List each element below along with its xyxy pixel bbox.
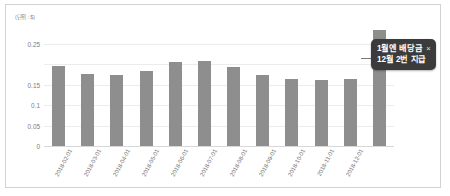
x-axis-tick-label: 2018-06-01 xyxy=(170,148,189,177)
bar[interactable] xyxy=(227,67,240,146)
bar[interactable] xyxy=(256,75,269,146)
chart-frame: (단위 : $) 00.050.10.150.25 2018-02-012018… xyxy=(5,4,441,188)
x-axis-tick-label: 2018-12-01 xyxy=(345,148,364,177)
bar[interactable] xyxy=(344,79,357,146)
annotation-line-2: 12월 2번 지급 xyxy=(377,54,430,65)
x-axis-tick-label: 2018-03-01 xyxy=(83,148,102,177)
bar-series xyxy=(44,23,394,146)
y-axis-tick-label: 0.25 xyxy=(28,40,40,47)
bar[interactable] xyxy=(52,66,65,146)
x-axis-tick-label: 2018-05-01 xyxy=(141,148,160,177)
bar[interactable] xyxy=(198,61,211,146)
axis-unit-label: (단위 : $) xyxy=(15,13,35,21)
y-axis-tick-label: 0.15 xyxy=(28,81,40,88)
bar[interactable] xyxy=(81,74,94,146)
y-axis-tick-label: 0.05 xyxy=(28,122,40,129)
x-axis-tick-label: 2018-09-01 xyxy=(258,148,277,177)
annotation-text-1: 1월엔 배당금 xyxy=(377,44,423,53)
annotation-callout[interactable]: 1월엔 배당금× 12월 2번 지급 xyxy=(371,39,436,70)
x-axis-tick-labels: 2018-02-012018-03-012018-04-012018-05-01… xyxy=(44,146,394,196)
y-axis-tick-label: 0.1 xyxy=(31,102,40,109)
x-axis-tick-label: 2018-10-01 xyxy=(287,148,306,177)
close-icon[interactable]: × xyxy=(426,44,430,53)
y-axis-tick-label: 0 xyxy=(36,143,40,150)
annotation-line-1: 1월엔 배당금× xyxy=(377,43,430,54)
bar[interactable] xyxy=(169,62,182,146)
bar[interactable] xyxy=(315,80,328,146)
x-axis-tick-label: 2018-07-01 xyxy=(199,148,218,177)
x-axis-tick-label: 2018-02-01 xyxy=(53,148,72,177)
x-axis-tick-label: 2018-04-01 xyxy=(112,148,131,177)
bar[interactable] xyxy=(140,71,153,146)
bar[interactable] xyxy=(285,79,298,146)
plot-area: 00.050.10.150.25 xyxy=(44,23,394,146)
x-axis-tick-label: 2018-08-01 xyxy=(228,148,247,177)
bar[interactable] xyxy=(110,75,123,146)
x-axis-tick-label: 2018-11-01 xyxy=(316,148,335,177)
